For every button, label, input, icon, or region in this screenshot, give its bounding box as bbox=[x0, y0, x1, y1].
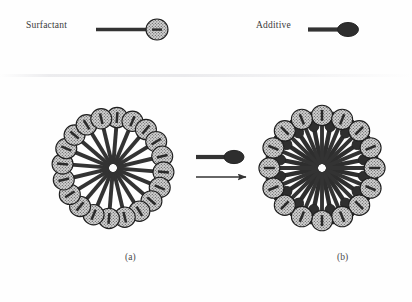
arrow-reagent-additive-symbol bbox=[196, 150, 244, 163]
surfactant-symbol bbox=[96, 19, 168, 40]
micelle-figure: Surfactant Additive (a) (b) bbox=[0, 0, 412, 302]
micelle-plain bbox=[52, 107, 174, 228]
diagram-canvas bbox=[0, 0, 412, 302]
micelle-mixed bbox=[259, 105, 385, 231]
additive-symbol bbox=[308, 23, 359, 37]
